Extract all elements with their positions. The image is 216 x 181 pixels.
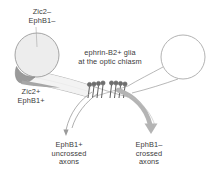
optic-chiasm-diagram: Zic2– EphB1– Zic2+ EphB1+ ephrin-B2+ gli… bbox=[0, 0, 216, 181]
label-ephb1-minus-crossed-axons: EphB1– crossed axons bbox=[120, 141, 178, 167]
crossed-arrowhead bbox=[145, 124, 158, 135]
left-retina bbox=[15, 33, 59, 77]
label-zic2-plus-ephb1-plus: Zic2+ EphB1+ bbox=[7, 88, 55, 105]
label-ephrin-b2-glia: ephrin-B2+ glia at the optic chiasm bbox=[64, 49, 156, 66]
label-ephb1-plus-uncrossed-axons: EphB1+ uncrossed axons bbox=[40, 141, 98, 167]
right-retina bbox=[161, 35, 205, 79]
crossed-axon-arrow-shaft bbox=[118, 90, 150, 124]
uncrossed-arrowhead bbox=[63, 130, 68, 137]
uncrossed-axon-arrows bbox=[66, 92, 97, 130]
label-zic2-minus-ephb1-minus: Zic2– EphB1– bbox=[20, 8, 64, 25]
